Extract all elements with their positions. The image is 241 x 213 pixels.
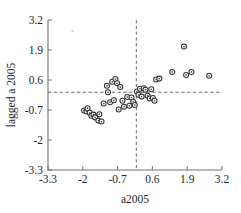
data-point-center	[123, 106, 125, 108]
data-point-center	[139, 88, 141, 90]
data-point-center	[145, 89, 147, 91]
x-axis-title: a2005	[121, 193, 149, 205]
y-tick-label: 3.2	[29, 14, 44, 26]
data-point-center	[107, 91, 109, 93]
plot-canvas: -3.3-2-0.70.61.93.2-3.3-2-0.70.61.93.2a2…	[0, 0, 241, 213]
data-point-center	[171, 71, 173, 73]
data-point-center	[126, 96, 128, 98]
data-point-center	[101, 121, 103, 123]
reference-lines	[48, 20, 222, 170]
x-tick-label: 3.2	[215, 173, 230, 185]
x-tick-label: 0.6	[145, 173, 160, 185]
data-point-center	[141, 96, 143, 98]
y-axis-title: lagged a 2005	[5, 63, 18, 128]
data-point-center	[185, 74, 187, 76]
data-point-center	[183, 46, 185, 48]
data-point-center	[208, 75, 210, 77]
data-point-center	[150, 88, 152, 90]
y-tick-label: -0.7	[25, 104, 43, 116]
scatter-plot-figure: -3.3-2-0.70.61.93.2-3.3-2-0.70.61.93.2a2…	[0, 0, 241, 213]
data-point-center	[119, 86, 121, 88]
y-tick-label: -2	[33, 134, 43, 146]
data-point-center	[191, 71, 193, 73]
data-point-center	[131, 97, 133, 99]
data-point-center	[99, 113, 101, 115]
data-point-center	[113, 99, 115, 101]
data-point-center	[106, 85, 108, 87]
y-tick-label: 1.9	[29, 44, 44, 56]
x-tick-label: -0.7	[108, 173, 126, 185]
data-point-center	[129, 105, 131, 107]
data-point-center	[122, 100, 124, 102]
y-tick-label: 0.6	[29, 74, 44, 86]
data-point-center	[111, 81, 113, 83]
x-tick-label: 1.9	[180, 173, 195, 185]
x-tick-label: -2	[78, 173, 88, 185]
data-point-center	[109, 101, 111, 103]
data-point-center	[94, 117, 96, 119]
data-point-center	[116, 82, 118, 84]
data-point-center	[134, 104, 136, 106]
data-point-center	[154, 100, 156, 102]
y-tick-label: -3.3	[25, 164, 43, 176]
data-point-center	[115, 78, 117, 80]
data-point-center	[87, 107, 89, 109]
axes-frame	[48, 20, 222, 170]
data-point-center	[103, 103, 105, 105]
axis-lines	[48, 20, 222, 170]
data-points	[82, 44, 212, 124]
artifact-speck	[71, 30, 73, 32]
data-point-center	[118, 109, 120, 111]
data-point-center	[159, 78, 161, 80]
